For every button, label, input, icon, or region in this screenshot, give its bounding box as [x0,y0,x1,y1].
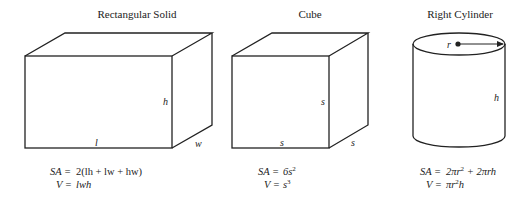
rect-front-face [25,56,172,148]
cylinder-title: Right Cylinder [427,8,493,20]
center-dot [455,41,460,46]
rect-v-formula: V = lwh [56,179,91,190]
cube-depth-label: s [351,137,355,148]
cube-height-label: s [321,96,325,107]
cube-side-face [329,33,368,148]
cube-bottom-label: s [280,137,284,148]
cylinder-sa-formula: SA = 2πr2 + 2πrh [420,165,496,177]
cylinder-height-label: h [494,92,499,103]
rect-title: Rectangular Solid [97,8,177,20]
right-cylinder [413,33,505,147]
rect-height-label: h [163,96,168,107]
cube-sa-formula: SA = 6s2 [258,165,296,177]
cube-v-formula: V = s3 [264,178,291,190]
cube-title: Cube [298,8,321,20]
rect-width-label: w [195,138,202,149]
cylinder-bottom-arc [413,136,505,147]
geometry-figures: Rectangular Solid l h w SA = 2(lh + lw +… [0,0,527,198]
rect-sa-formula: SA = 2(lh + lw + hw) [50,166,143,178]
rect-length-label: l [95,137,98,148]
cube-front-face [232,56,329,148]
cube-top-face [232,33,368,56]
rect-side-face [172,33,212,148]
cube [232,33,368,148]
cylinder-radius-label: r [447,39,451,50]
rectangular-solid [25,33,212,148]
cylinder-v-formula: V = πr2h [426,178,464,190]
rect-top-face [25,33,212,56]
